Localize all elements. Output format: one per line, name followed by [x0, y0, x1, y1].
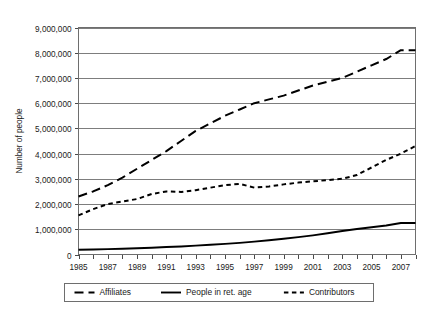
series-line-contributors [79, 146, 416, 215]
x-tick-label: 1995 [216, 263, 235, 272]
x-tick-label: 1987 [99, 263, 118, 272]
legend-label-contributors: Contributors [309, 287, 355, 297]
series-line-people-in-ret-age [79, 223, 416, 250]
x-tick-label: 2003 [333, 263, 352, 272]
chart-canvas: 01,000,0002,000,0003,000,0004,000,0005,0… [0, 0, 436, 325]
y-tick-label: 4,000,000 [35, 151, 72, 160]
y-tick-label: 0 [67, 252, 72, 261]
x-axis-tick-labels: 1985198719891991199319951997199920012003… [69, 263, 410, 272]
plot-frame [79, 28, 416, 255]
x-tick-label: 1999 [275, 263, 294, 272]
series-line-affiliates [79, 50, 416, 196]
x-axis-tickmarks [80, 255, 417, 259]
x-tick-label: 1997 [245, 263, 264, 272]
x-tick-label: 1993 [187, 263, 206, 272]
data-series-group [79, 50, 416, 250]
x-tick-label: 2005 [362, 263, 381, 272]
x-tick-label: 2001 [304, 263, 323, 272]
x-tick-label: 1991 [157, 263, 176, 272]
y-tick-label: 8,000,000 [35, 50, 72, 59]
y-tick-label: 9,000,000 [35, 25, 72, 34]
y-axis-tick-labels: 01,000,0002,000,0003,000,0004,000,0005,0… [35, 25, 72, 261]
y-tick-label: 3,000,000 [35, 176, 72, 185]
x-tick-label: 1989 [128, 263, 147, 272]
line-chart: 01,000,0002,000,0003,000,0004,000,0005,0… [0, 0, 436, 325]
y-tick-label: 5,000,000 [35, 125, 72, 134]
x-tick-label: 2007 [392, 263, 411, 272]
legend-label-affiliates: Affiliates [100, 287, 132, 297]
y-axis-title: Number of people [15, 108, 24, 174]
x-tick-label: 1985 [69, 263, 88, 272]
y-tick-label: 7,000,000 [35, 75, 72, 84]
y-tick-label: 1,000,000 [35, 226, 72, 235]
chart-legend: AffiliatesPeople in ret. ageContributors [65, 284, 374, 302]
y-tick-label: 2,000,000 [35, 201, 72, 210]
gridlines-group [75, 29, 416, 256]
y-tick-label: 6,000,000 [35, 100, 72, 109]
legend-label-people-in-ret-age: People in ret. age [186, 287, 252, 297]
